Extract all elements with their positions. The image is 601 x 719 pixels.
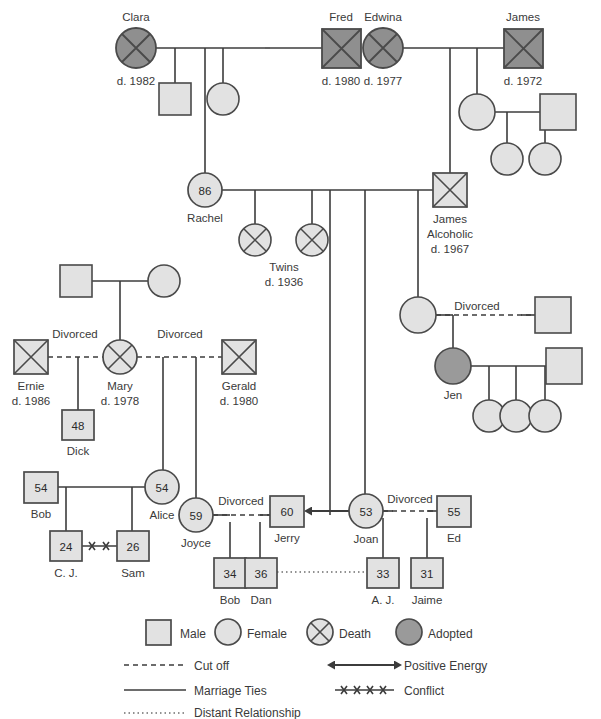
node-clara-son[interactable] xyxy=(159,83,191,115)
age-joyce: 59 xyxy=(190,510,203,522)
legend-line-cut-off: Cut off xyxy=(124,659,230,673)
label-gerald-death: d. 1980 xyxy=(220,395,258,407)
label-edwina-name: Edwina xyxy=(364,11,402,23)
node-edwina-granddaughter-2[interactable] xyxy=(529,143,561,175)
label-james-sr-death: d. 1972 xyxy=(504,75,542,87)
label-bob-sr-name: Bob xyxy=(31,508,51,520)
node-ernie[interactable]: Ernie d. 1986 xyxy=(12,340,50,407)
age-dick: 48 xyxy=(72,420,85,432)
age-jaime: 31 xyxy=(421,568,434,580)
node-clara[interactable]: Clara d. 1982 xyxy=(116,11,156,87)
label-alice-name: Alice xyxy=(150,509,175,521)
node-edwina-daughter-spouse[interactable] xyxy=(540,94,576,130)
label-divorced-jen-parents: Divorced xyxy=(454,300,499,312)
label-james-alcoholic-death: d. 1967 xyxy=(431,243,469,255)
legend-line-conflict: Conflict xyxy=(335,684,445,698)
label-divorced-joan-ed: Divorced xyxy=(387,493,432,505)
node-dan[interactable]: 36 Dan xyxy=(245,558,277,606)
label-fred-name: Fred xyxy=(329,11,353,23)
label-jaime-name: Jaime xyxy=(412,594,443,606)
node-aj[interactable]: 33 A. J. xyxy=(367,558,399,606)
node-mary-grandmother[interactable] xyxy=(148,265,180,297)
legend: Male Female Death Adopted Cut off Marria… xyxy=(124,619,487,719)
age-bob-sr: 54 xyxy=(35,482,48,494)
node-twin-2[interactable] xyxy=(296,224,328,256)
label-aj-name: A. J. xyxy=(371,594,394,606)
node-joyce[interactable]: 59 Joyce xyxy=(179,498,213,549)
label-james-alcoholic-note: Alcoholic xyxy=(427,228,473,240)
legend-label-marriage-ties: Marriage Ties xyxy=(194,684,267,698)
node-clara-daughter[interactable] xyxy=(207,83,239,115)
label-cj-name: C. J. xyxy=(54,567,78,579)
node-jen-mother-ex[interactable] xyxy=(535,297,571,333)
legend-label-cut-off: Cut off xyxy=(194,659,230,673)
node-edwina-granddaughter-1[interactable] xyxy=(491,143,523,175)
node-edwina-daughter[interactable] xyxy=(459,94,495,130)
label-divorced-ernie-mary: Divorced xyxy=(52,328,97,340)
node-jen-spouse[interactable] xyxy=(546,348,582,384)
label-ernie-name: Ernie xyxy=(18,380,45,392)
node-sam[interactable]: 26 Sam xyxy=(117,531,149,579)
genogram-canvas: Clara d. 1982 Fred d. 1980 Edwina d. 197… xyxy=(0,0,601,719)
legend-line-marriage-ties: Marriage Ties xyxy=(124,684,267,698)
label-sam-name: Sam xyxy=(121,567,145,579)
node-fred[interactable]: Fred d. 1980 xyxy=(322,11,361,87)
node-bob-sr[interactable]: 54 Bob xyxy=(24,472,58,520)
node-jerry[interactable]: 60 Jerry xyxy=(270,496,304,544)
label-ernie-death: d. 1986 xyxy=(12,395,50,407)
label-mary-name: Mary xyxy=(107,380,133,392)
legend-label-female: Female xyxy=(247,627,287,641)
label-ed-name: Ed xyxy=(447,532,461,544)
label-joan-name: Joan xyxy=(354,533,379,545)
label-gerald-name: Gerald xyxy=(222,380,257,392)
legend-label-distant-relationship: Distant Relationship xyxy=(194,706,301,719)
legend-label-male: Male xyxy=(180,627,206,641)
genogram-svg: Clara d. 1982 Fred d. 1980 Edwina d. 197… xyxy=(0,0,601,719)
age-aj: 33 xyxy=(377,568,390,580)
node-joan[interactable]: 53 Joan xyxy=(349,494,383,545)
node-james-sr[interactable]: James d. 1972 xyxy=(504,11,543,87)
node-jen[interactable]: Jen xyxy=(435,348,471,401)
label-bob-jr-name: Bob xyxy=(220,594,240,606)
conflict-line xyxy=(81,542,117,550)
age-jerry: 60 xyxy=(281,506,294,518)
node-gerald[interactable]: Gerald d. 1980 xyxy=(220,340,258,407)
node-jen-child-2[interactable] xyxy=(500,400,532,432)
node-jen-mother[interactable] xyxy=(400,297,436,333)
node-mary[interactable]: Mary d. 1978 xyxy=(101,340,139,407)
node-jen-child-3[interactable] xyxy=(529,400,561,432)
age-sam: 26 xyxy=(127,541,140,553)
node-dick[interactable]: 48 Dick xyxy=(62,410,94,457)
node-edwina[interactable]: Edwina d. 1977 xyxy=(363,11,403,87)
node-jaime[interactable]: 31 Jaime xyxy=(411,558,443,606)
node-bob-jr[interactable]: 34 Bob xyxy=(214,558,246,606)
node-twin-1[interactable] xyxy=(239,224,271,256)
label-jerry-name: Jerry xyxy=(274,532,300,544)
age-dan: 36 xyxy=(255,568,268,580)
label-james-sr-name: James xyxy=(506,11,540,23)
legend-symbol-female: Female xyxy=(215,619,287,645)
label-twins-death: d. 1936 xyxy=(265,276,303,288)
legend-label-positive-energy: Positive Energy xyxy=(404,659,487,673)
label-fred-death: d. 1980 xyxy=(322,75,360,87)
node-alice[interactable]: 54 Alice xyxy=(145,470,179,521)
legend-label-death: Death xyxy=(339,627,371,641)
legend-label-adopted: Adopted xyxy=(428,627,473,641)
node-ed[interactable]: 55 Ed xyxy=(437,496,471,544)
legend-label-conflict: Conflict xyxy=(404,684,445,698)
age-rachel: 86 xyxy=(199,185,212,197)
label-divorced-joyce-jerry: Divorced xyxy=(218,495,263,507)
label-rachel-name: Rachel xyxy=(187,212,223,224)
label-divorced-mary-gerald: Divorced xyxy=(157,328,202,340)
label-joyce-name: Joyce xyxy=(181,537,211,549)
node-cj[interactable]: 24 C. J. xyxy=(50,531,82,579)
label-clara-name: Clara xyxy=(122,11,150,23)
label-clara-death: d. 1982 xyxy=(117,75,155,87)
legend-symbol-male: Male xyxy=(146,620,206,645)
age-ed: 55 xyxy=(448,506,461,518)
node-mary-grandfather[interactable] xyxy=(60,265,92,297)
label-jen-name: Jen xyxy=(444,389,463,401)
node-james-alcoholic[interactable]: James Alcoholic d. 1967 xyxy=(427,173,473,255)
node-rachel[interactable]: 86 Rachel xyxy=(187,173,223,224)
label-mary-death: d. 1978 xyxy=(101,395,139,407)
